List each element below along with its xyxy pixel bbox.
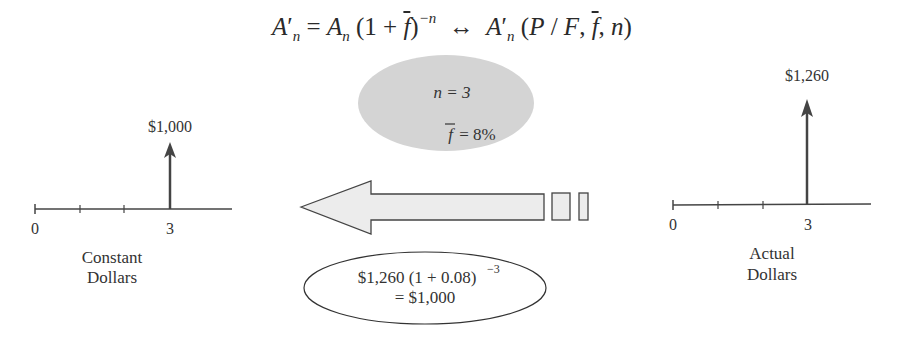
tick-label-3: 3 — [166, 220, 174, 237]
parameters-bubble: n = 3 f = 8% — [358, 55, 534, 151]
calculation-bubble: $1,260 (1 + 0.08) −3 = $1,000 — [304, 252, 546, 324]
tick-label-3: 3 — [804, 216, 812, 233]
diagram-label-line1: Constant — [82, 248, 143, 267]
arrow-tail-block — [552, 193, 570, 220]
actual-dollars-diagram: $1,260 0 3 Actual Dollars — [669, 67, 871, 284]
time-axis — [673, 204, 871, 205]
constant-dollars-diagram: $1,000 0 3 Constant Dollars — [31, 118, 232, 287]
calc-line2: = $1,000 — [395, 288, 456, 307]
n-value: n = 3 — [434, 83, 471, 102]
calc-line1: $1,260 (1 + 0.08) — [358, 268, 477, 287]
tick-label-0: 0 — [669, 216, 677, 233]
tick-label-0: 0 — [31, 220, 39, 237]
diagram-label-line1: Actual — [749, 244, 795, 263]
amount-label: $1,260 — [785, 67, 829, 84]
amount-label: $1,000 — [148, 118, 192, 135]
diagram-label-line2: Dollars — [87, 268, 137, 287]
diagram-canvas: $1,000 0 3 Constant Dollars n = 3 f = 8%… — [0, 0, 904, 342]
bubble-shape — [358, 55, 534, 151]
calc-exponent: −3 — [487, 262, 500, 276]
arrow-tail-block — [579, 193, 588, 220]
conversion-arrow — [301, 181, 588, 234]
left-arrow-icon — [301, 181, 544, 234]
diagram-label-line2: Dollars — [747, 265, 797, 284]
f-value: = 8% — [455, 125, 496, 144]
